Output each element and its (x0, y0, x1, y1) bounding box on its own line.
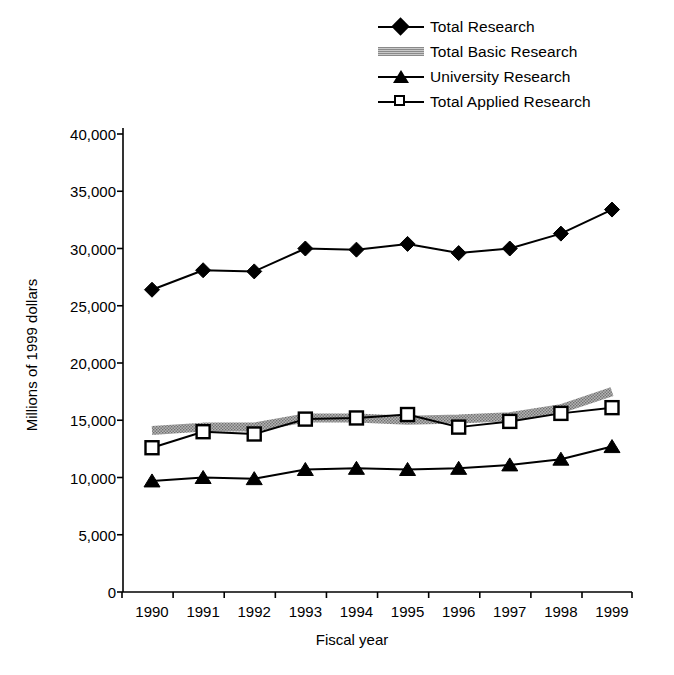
y-axis-title-wrapper: Millions of 1999 dollars (23, 490, 24, 491)
y-axis-title: Millions of 1999 dollars (23, 220, 40, 490)
x-axis-title: Fiscal year (122, 631, 582, 648)
research-funding-line-chart: Total Research Total Basic Research Univ… (0, 0, 674, 675)
x-axis-tick-label: 1999 (582, 604, 642, 619)
x-axis-tick-labels: 1990199119921993199419951996199719981999 (0, 0, 674, 675)
